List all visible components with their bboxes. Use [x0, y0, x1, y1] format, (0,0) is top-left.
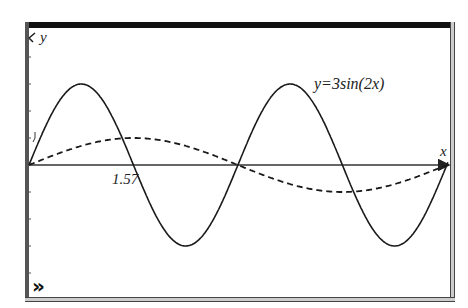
curve-equation-label[interactable]: y=3sin(2x): [314, 76, 384, 92]
y-tick-one-mark: [33, 132, 35, 142]
expand-entry-line-icon[interactable]: »: [32, 276, 45, 296]
y-axis-label: y: [40, 30, 47, 45]
graph-canvas: [0, 0, 468, 308]
x-tick-label: 1.57: [112, 172, 138, 187]
x-axis-label: x: [440, 144, 447, 159]
y-axis-arrow-icon: [29, 33, 35, 42]
